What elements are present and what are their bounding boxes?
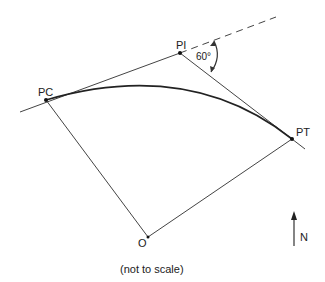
label-o: O: [138, 238, 147, 249]
label-pi: PI: [176, 40, 186, 51]
label-angle: 60°: [196, 52, 211, 62]
label-pc: PC: [38, 87, 53, 98]
label-north: N: [300, 232, 308, 243]
point-pi: [178, 51, 182, 55]
point-pc: [44, 98, 48, 102]
back-tangent: [20, 53, 180, 112]
horizontal-curve-diagram: PC PI PT O 60° N (not to scale): [0, 0, 325, 282]
radius-pt-o: [148, 139, 292, 237]
radius-pc-o: [46, 100, 148, 237]
label-pt: PT: [296, 127, 310, 138]
note-not-to-scale: (not to scale): [120, 264, 184, 275]
point-pt: [290, 137, 294, 141]
diagram-canvas: [0, 0, 325, 282]
circular-curve: [46, 86, 292, 139]
north-arrow-icon: [291, 211, 297, 220]
tangent-extension-dashed: [180, 17, 276, 53]
